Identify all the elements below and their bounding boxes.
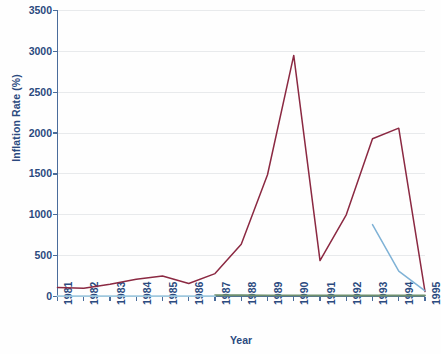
plot-area xyxy=(0,0,441,354)
data-line-series-blue xyxy=(373,225,426,291)
chart-container: Inflation Rate (%) Year 0500100015002000… xyxy=(0,0,441,354)
